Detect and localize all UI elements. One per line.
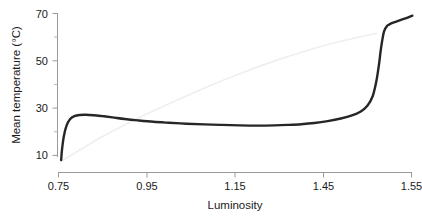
y-axis-group: 70 50 30 10 Mean temperature (°C) (10, 8, 58, 162)
x-tick-label-2: 1.15 (224, 180, 245, 192)
chart-figure: 70 50 30 10 Mean temperature (°C) 0.75 0… (0, 0, 422, 217)
data-series-group (61, 16, 412, 161)
x-axis-group: 0.75 0.95 1.15 1.45 1.55 Luminosity (48, 173, 422, 212)
plot-svg: 70 50 30 10 Mean temperature (°C) 0.75 0… (0, 0, 422, 217)
y-tick-label-10: 10 (36, 149, 48, 161)
y-axis-title: Mean temperature (°C) (10, 26, 22, 144)
y-tick-label-50: 50 (36, 55, 48, 67)
x-axis-title: Luminosity (208, 199, 263, 211)
x-tick-label-3: 1.45 (313, 180, 334, 192)
y-tick-label-70: 70 (36, 8, 48, 20)
x-tick-label-4: 1.55 (401, 180, 422, 192)
x-axis-ticks (59, 173, 412, 178)
x-tick-label-0: 0.75 (48, 180, 69, 192)
y-tick-label-30: 30 (36, 102, 48, 114)
reference-line-path (62, 33, 377, 161)
x-tick-label-1: 0.95 (136, 180, 157, 192)
y-axis-ticks (53, 14, 58, 156)
